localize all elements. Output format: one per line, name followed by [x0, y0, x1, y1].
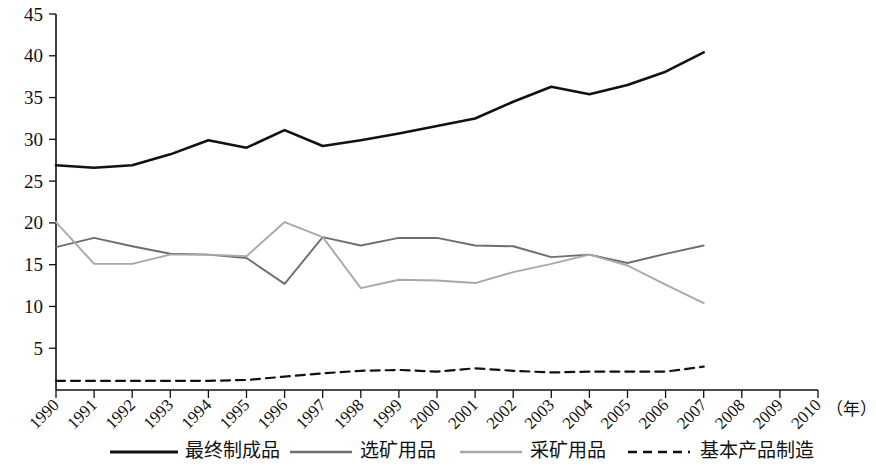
- legend-label-2: 采矿用品: [530, 440, 606, 461]
- x-tick-label: 2001: [444, 395, 481, 432]
- x-tick-label: 1996: [254, 395, 291, 432]
- line-chart: 51015202530354045 1990199119921993199419…: [0, 0, 876, 469]
- x-tick-label: 2004: [559, 395, 597, 433]
- x-tick-label: 2010: [787, 395, 824, 432]
- y-tick-label: 45: [24, 4, 43, 25]
- legend-label-3: 基本产品制造: [700, 440, 814, 461]
- legend-label-0: 最终制成品: [185, 440, 280, 461]
- y-tick-label: 20: [24, 212, 43, 233]
- y-axis: 51015202530354045: [24, 4, 56, 391]
- x-tick-label: 1998: [330, 395, 367, 432]
- x-tick-label: 2007: [673, 395, 711, 433]
- x-tick-label: 2003: [521, 395, 558, 432]
- x-tick-label: 2002: [483, 395, 520, 432]
- series-line-3: [56, 367, 704, 381]
- y-tick-label: 35: [24, 87, 43, 108]
- y-tick-label: 15: [24, 254, 43, 275]
- x-tick-label: 1999: [368, 395, 405, 432]
- x-tick-label: 2006: [635, 395, 672, 432]
- x-tick-label: 2000: [406, 395, 443, 432]
- legend-label-1: 选矿用品: [360, 440, 436, 461]
- y-tick-label: 30: [24, 129, 43, 150]
- chart-legend: 最终制成品选矿用品采矿用品基本产品制造: [110, 440, 814, 461]
- x-tick-label: 1997: [292, 395, 330, 433]
- series-line-0: [56, 52, 704, 167]
- y-tick-label: 5: [34, 338, 44, 359]
- x-tick-label: 1991: [63, 395, 100, 432]
- x-axis-unit-label: （年）: [826, 400, 876, 419]
- chart-container: 51015202530354045 1990199119921993199419…: [0, 0, 876, 469]
- x-tick-label: 2009: [749, 395, 786, 432]
- x-tick-label: 1995: [216, 395, 253, 432]
- x-tick-label: 1993: [140, 395, 177, 432]
- y-tick-label: 25: [24, 171, 43, 192]
- x-tick-label: 2005: [597, 395, 634, 432]
- x-tick-label: 1992: [102, 395, 139, 432]
- series-line-2: [56, 222, 704, 303]
- x-tick-label: 1994: [178, 395, 216, 433]
- series-layer: [56, 52, 704, 380]
- x-axis: 1990199119921993199419951996199719981999…: [25, 390, 876, 433]
- y-tick-label: 10: [24, 296, 43, 317]
- x-tick-label: 2008: [711, 395, 748, 432]
- y-tick-label: 40: [24, 45, 43, 66]
- x-tick-label: 1990: [25, 395, 62, 432]
